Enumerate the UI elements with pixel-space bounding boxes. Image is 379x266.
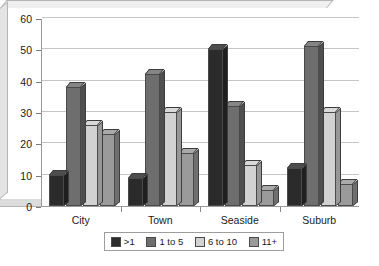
bar-side-face <box>257 161 262 206</box>
bar-side-face <box>302 164 307 206</box>
x-axis-tick-label: Town <box>148 214 173 226</box>
y-axis-tick-mark <box>36 82 41 83</box>
bar-suburb-series-1 <box>287 168 302 206</box>
bar-chart: 0102030405060 CityTownSeasideSuburb >11 … <box>0 0 379 266</box>
legend-label: >1 <box>124 236 135 247</box>
y-axis-tick-label: 50 <box>20 44 32 56</box>
plot-ceiling-3d <box>0 0 334 8</box>
bar-front-face <box>287 168 302 206</box>
y-axis-tick-label: 0 <box>26 201 32 213</box>
y-axis-tick-mark <box>36 19 41 20</box>
y-axis-tick-label: 40 <box>20 76 32 88</box>
bar-seaside-series-1 <box>208 49 223 206</box>
legend-label: 1 to 5 <box>159 236 183 247</box>
x-axis-tick-label: Seaside <box>221 214 259 226</box>
legend-label: 11+ <box>262 236 277 247</box>
legend-swatch-icon <box>146 237 156 247</box>
bar-city-series-1 <box>49 175 64 206</box>
plot-area <box>41 19 359 207</box>
y-axis-tick-mark <box>36 144 41 145</box>
legend-item: 6 to 10 <box>195 236 237 247</box>
legend-swatch-icon <box>111 237 121 247</box>
x-axis-tick-label: City <box>72 214 90 226</box>
bar-side-face <box>336 108 341 206</box>
bar-side-face <box>240 102 245 206</box>
x-axis-tick-mark <box>200 207 201 212</box>
legend-item: 1 to 5 <box>146 236 183 247</box>
y-axis-tick-label: 30 <box>20 107 32 119</box>
bar-side-face <box>98 120 103 206</box>
bar-side-face <box>81 83 86 206</box>
y-axis-tick-label: 20 <box>20 138 32 150</box>
y-axis-tick-mark <box>36 176 41 177</box>
bar-side-face <box>143 174 148 206</box>
y-axis: 0102030405060 <box>0 0 38 266</box>
bar-front-face <box>208 49 223 206</box>
bar-side-face <box>115 130 120 206</box>
bar-side-face <box>64 170 69 206</box>
legend-item: >1 <box>111 236 135 247</box>
x-axis-tick-mark <box>280 207 281 212</box>
legend-swatch-icon <box>249 237 259 247</box>
x-axis-tick-label: Suburb <box>302 214 336 226</box>
x-axis-tick-mark <box>121 207 122 212</box>
bar-side-face <box>223 45 228 206</box>
bar-side-face <box>194 149 199 206</box>
y-axis-tick-label: 60 <box>20 13 32 25</box>
legend-item: 11+ <box>249 236 277 247</box>
bar-side-face <box>177 108 182 206</box>
bar-side-face <box>353 180 358 206</box>
y-axis-tick-mark <box>36 50 41 51</box>
bar-town-series-1 <box>128 178 143 206</box>
x-axis: CityTownSeasideSuburb <box>41 210 366 228</box>
y-axis-tick-label: 10 <box>20 170 32 182</box>
chart-legend: >11 to 56 to 1011+ <box>104 232 284 251</box>
bar-side-face <box>160 70 165 206</box>
legend-swatch-icon <box>195 237 205 247</box>
bar-front-face <box>128 178 143 206</box>
y-axis-tick-mark <box>36 113 41 114</box>
bar-side-face <box>319 42 324 206</box>
gridline <box>42 17 359 18</box>
y-axis-tick-mark <box>36 207 41 208</box>
legend-label: 6 to 10 <box>208 236 237 247</box>
bar-front-face <box>49 175 64 206</box>
